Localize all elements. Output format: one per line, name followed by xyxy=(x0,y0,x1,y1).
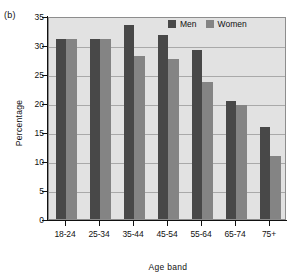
bar-men-25-34 xyxy=(90,39,101,219)
x-axis-tick xyxy=(201,221,202,226)
x-axis-title: Age band xyxy=(48,262,288,272)
bar-men-45-54 xyxy=(158,35,169,219)
y-axis-tick-label: 25 xyxy=(4,70,44,80)
y-axis-tick-label: 5 xyxy=(4,186,44,196)
y-axis-tick-label: 35 xyxy=(4,12,44,22)
legend-swatch-women xyxy=(206,20,214,28)
chart-figure: (b) Percentage 05101520253035 18-2425-34… xyxy=(0,0,294,279)
bar-women-18-24 xyxy=(66,39,77,219)
bar-women-75+ xyxy=(270,156,281,219)
y-axis-tick-label: 15 xyxy=(4,128,44,138)
bar-men-55-64 xyxy=(192,50,203,219)
bar-men-18-24 xyxy=(56,39,67,219)
y-axis-tick-label: 0 xyxy=(4,215,44,225)
y-axis-tick-label: 10 xyxy=(4,157,44,167)
y-axis-tick-label: 20 xyxy=(4,99,44,109)
x-axis-tick xyxy=(167,221,168,226)
y-axis-tick-label: 30 xyxy=(4,41,44,51)
plot-area xyxy=(48,17,286,220)
x-axis-tick xyxy=(269,221,270,226)
bar-women-45-54 xyxy=(168,59,179,219)
x-axis-tick-label-75+: 75+ xyxy=(247,229,291,239)
legend-label-men: Men xyxy=(180,19,197,29)
bar-series-container xyxy=(49,18,285,219)
legend-label-women: Women xyxy=(218,19,247,29)
legend-swatch-men xyxy=(168,20,176,28)
legend-entry-men: Men xyxy=(168,19,197,29)
bar-men-65-74 xyxy=(226,101,237,219)
legend-entry-women: Women xyxy=(206,19,247,29)
x-axis-tick xyxy=(133,221,134,226)
bar-women-55-64 xyxy=(202,82,213,219)
bar-men-75+ xyxy=(260,127,271,219)
legend: MenWomen xyxy=(168,19,247,29)
x-axis-tick xyxy=(235,221,236,226)
x-axis-tick xyxy=(65,221,66,226)
bar-men-35-44 xyxy=(124,25,135,219)
bar-women-25-34 xyxy=(100,39,111,219)
x-axis-tick xyxy=(99,221,100,226)
bar-women-65-74 xyxy=(236,105,247,219)
bar-women-35-44 xyxy=(134,56,145,219)
